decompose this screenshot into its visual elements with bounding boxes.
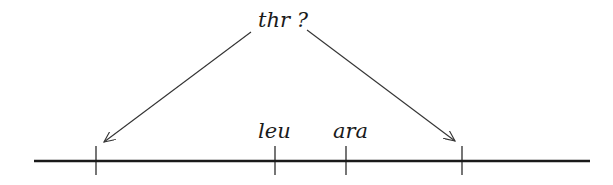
ara-label: ara bbox=[333, 121, 368, 142]
leu-label: leu bbox=[258, 121, 291, 142]
gene-map-diagram: thr ? leu ara bbox=[0, 0, 613, 185]
arrow-right bbox=[307, 30, 455, 141]
question-label: thr ? bbox=[258, 10, 308, 31]
arrow-left bbox=[104, 32, 251, 142]
